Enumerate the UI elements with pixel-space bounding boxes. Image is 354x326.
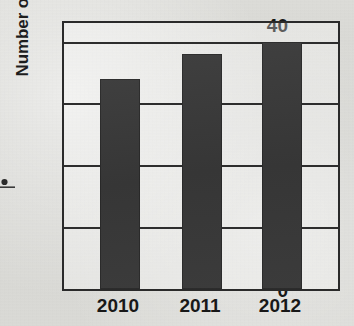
plot-area xyxy=(62,21,340,291)
bar-2012 xyxy=(262,42,302,289)
x-tick-label-2012: 2012 xyxy=(240,296,320,315)
bar-2010 xyxy=(100,79,140,289)
cropped-title-strip xyxy=(150,0,300,10)
bar-2011 xyxy=(182,54,222,289)
stray-ink-dot-icon xyxy=(0,178,16,192)
x-tick-label-2010: 2010 xyxy=(78,296,158,315)
bar-chart-figure: Number of students 40 30 20 10 0 2010 20… xyxy=(0,0,354,326)
x-tick-label-2011: 2011 xyxy=(160,296,240,315)
y-axis-title: Number of students xyxy=(12,0,34,82)
